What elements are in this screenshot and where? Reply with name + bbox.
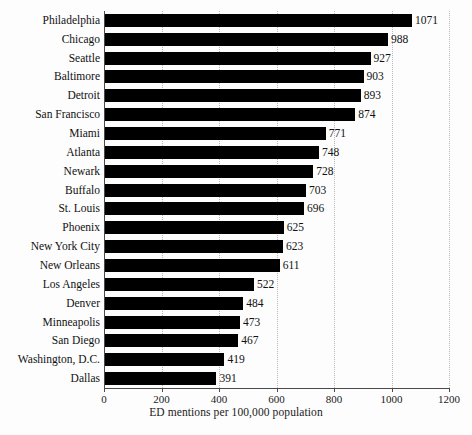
category-label: Miami: [0, 127, 100, 140]
bar-row[interactable]: 748: [104, 146, 449, 159]
bar[interactable]: [104, 89, 361, 102]
bar-value-label: 874: [358, 107, 375, 121]
gridline-800: [334, 11, 335, 388]
category-label: Chicago: [0, 33, 100, 46]
bar-row[interactable]: 611: [104, 259, 449, 272]
bar-row[interactable]: 484: [104, 297, 449, 310]
bar-value-label: 391: [219, 371, 236, 385]
category-label: Phoenix: [0, 221, 100, 234]
category-label: San Diego: [0, 334, 100, 347]
x-tick-label: 400: [211, 393, 228, 406]
bar-value-label: 771: [329, 126, 346, 140]
bar-value-label: 623: [286, 239, 303, 253]
bar-row[interactable]: 391: [104, 372, 449, 385]
bar-value-label: 696: [307, 201, 324, 215]
bar-row[interactable]: 467: [104, 334, 449, 347]
bar-row[interactable]: 988: [104, 33, 449, 46]
bar-row[interactable]: 927: [104, 52, 449, 65]
bar-value-label: 522: [257, 277, 274, 291]
x-tick: [449, 388, 450, 392]
gridline-1200: [449, 11, 450, 388]
gridline-600: [277, 11, 278, 388]
bar[interactable]: [104, 202, 304, 215]
bar-value-label: 728: [316, 164, 333, 178]
x-tick-label: 0: [101, 393, 107, 406]
x-tick-label: 800: [326, 393, 343, 406]
bar-value-label: 988: [391, 32, 408, 46]
bar-value-label: 484: [246, 296, 263, 310]
x-tick: [104, 388, 105, 392]
bar[interactable]: [104, 297, 243, 310]
bar[interactable]: [104, 146, 319, 159]
bar[interactable]: [104, 372, 216, 385]
category-label: Baltimore: [0, 70, 100, 83]
bar[interactable]: [104, 278, 254, 291]
bar-row[interactable]: 703: [104, 184, 449, 197]
bar-row[interactable]: 893: [104, 89, 449, 102]
bar-row[interactable]: 625: [104, 221, 449, 234]
bar[interactable]: [104, 221, 284, 234]
bar-row[interactable]: 473: [104, 316, 449, 329]
category-label: San Francisco: [0, 108, 100, 121]
category-label: Seattle: [0, 52, 100, 65]
bar[interactable]: [104, 70, 364, 83]
bar[interactable]: [104, 184, 306, 197]
bar[interactable]: [104, 52, 371, 65]
bar-value-label: 419: [227, 352, 244, 366]
bar[interactable]: [104, 334, 238, 347]
bar-value-label: 1071: [415, 13, 438, 27]
bar-row[interactable]: 623: [104, 240, 449, 253]
bar-value-label: 625: [287, 220, 304, 234]
bar-value-label: 893: [364, 88, 381, 102]
category-label: New Orleans: [0, 259, 100, 272]
bar[interactable]: [104, 240, 283, 253]
y-axis-line: [104, 11, 105, 389]
category-label: Los Angeles: [0, 278, 100, 291]
category-label: New York City: [0, 240, 100, 253]
bar[interactable]: [104, 165, 313, 178]
category-label: Newark: [0, 165, 100, 178]
bar-value-label: 703: [309, 183, 326, 197]
x-tick-label: 1200: [438, 393, 460, 406]
x-tick-label: 200: [153, 393, 170, 406]
bar-row[interactable]: 419: [104, 353, 449, 366]
bar-row[interactable]: 522: [104, 278, 449, 291]
gridline-400: [219, 11, 220, 388]
bar-row[interactable]: 771: [104, 127, 449, 140]
category-label: Denver: [0, 297, 100, 310]
bar[interactable]: [104, 259, 280, 272]
category-label: Detroit: [0, 89, 100, 102]
bar-row[interactable]: 696: [104, 202, 449, 215]
x-tick: [392, 388, 393, 392]
bar-row[interactable]: 874: [104, 108, 449, 121]
bar-value-label: 903: [367, 69, 384, 83]
gridline-200: [162, 11, 163, 388]
category-label: Minneapolis: [0, 316, 100, 329]
bar-row[interactable]: 1071: [104, 14, 449, 27]
x-tick-label: 1000: [381, 393, 403, 406]
bar[interactable]: [104, 33, 388, 46]
x-tick: [277, 388, 278, 392]
bar-chart: 1071988927903893874771748728703696625623…: [0, 0, 472, 435]
bar-value-label: 473: [243, 315, 260, 329]
bar[interactable]: [104, 127, 326, 140]
category-label: St. Louis: [0, 202, 100, 215]
bar[interactable]: [104, 316, 240, 329]
category-label: Philadelphia: [0, 14, 100, 27]
gridline-1000: [392, 11, 393, 388]
category-label: Atlanta: [0, 146, 100, 159]
bar[interactable]: [104, 108, 355, 121]
bar-value-label: 611: [283, 258, 300, 272]
category-label: Dallas: [0, 372, 100, 385]
bar-row[interactable]: 903: [104, 70, 449, 83]
bar-row[interactable]: 728: [104, 165, 449, 178]
bar[interactable]: [104, 14, 412, 27]
bar-value-label: 467: [241, 333, 258, 347]
x-tick: [162, 388, 163, 392]
x-axis-title: ED mentions per 100,000 population: [0, 406, 472, 418]
x-tick: [219, 388, 220, 392]
bar[interactable]: [104, 353, 224, 366]
bar-value-label: 927: [374, 51, 391, 65]
bar-value-label: 748: [322, 145, 339, 159]
category-label: Buffalo: [0, 184, 100, 197]
